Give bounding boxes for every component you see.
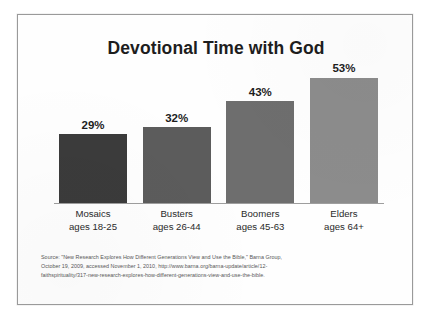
bar-group-mosaics[interactable]: 29%: [59, 61, 127, 203]
bar-group-boomers[interactable]: 43%: [226, 61, 294, 203]
x-tick-busters: Busters ages 26-44: [143, 208, 211, 233]
bar-group-elders[interactable]: 53%: [310, 61, 378, 203]
x-tick-label-ages: ages 64+: [310, 221, 378, 234]
source-line-1: Source: "New Research Explores How Diffe…: [41, 253, 393, 262]
bar-rect-elders[interactable]: [310, 78, 378, 203]
x-axis-tick-labels: Mosaics ages 18-25 Busters ages 26-44 Bo…: [59, 208, 378, 233]
bar-value-label: 29%: [81, 120, 104, 132]
bar-value-label: 43%: [249, 87, 272, 99]
x-tick-boomers: Boomers ages 45-63: [226, 208, 294, 233]
x-tick-label-ages: ages 45-63: [226, 221, 294, 234]
bar-rect-mosaics[interactable]: [59, 134, 127, 203]
x-tick-label-name: Boomers: [226, 208, 294, 221]
bar-series: 29% 32% 43% 53%: [59, 61, 378, 203]
page-title: Devotional Time with God: [18, 38, 414, 59]
x-tick-label-name: Busters: [143, 208, 211, 221]
x-tick-elders: Elders ages 64+: [310, 208, 378, 233]
bar-value-label: 32%: [165, 113, 188, 125]
x-tick-mosaics: Mosaics ages 18-25: [59, 208, 127, 233]
source-line-3: faithspirituality/317-new-research-explo…: [41, 271, 393, 280]
bar-rect-busters[interactable]: [143, 127, 211, 203]
source-citation: Source: "New Research Explores How Diffe…: [41, 253, 393, 279]
x-tick-label-name: Mosaics: [59, 208, 127, 221]
bar-group-busters[interactable]: 32%: [143, 61, 211, 203]
x-tick-label-ages: ages 26-44: [143, 221, 211, 234]
chart-plot-area: 29% 32% 43% 53%: [59, 61, 378, 203]
x-tick-label-ages: ages 18-25: [59, 221, 127, 234]
x-tick-label-name: Elders: [310, 208, 378, 221]
bar-rect-boomers[interactable]: [226, 101, 294, 203]
source-line-2: October 19, 2009, accessed November 1, 2…: [41, 262, 393, 271]
bar-value-label: 53%: [332, 63, 355, 75]
x-axis-baseline: [54, 203, 384, 204]
slide-frame: Devotional Time with God 29% 32% 43% 53%: [17, 14, 413, 305]
